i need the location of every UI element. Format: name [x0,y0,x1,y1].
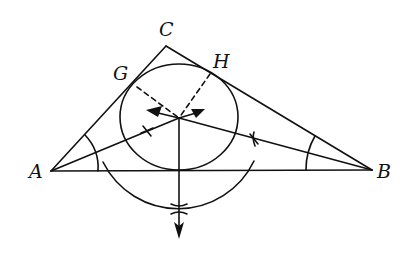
label-h: H [212,50,230,72]
incircle-construction-diagram: A B C G H [0,0,412,254]
cross-mark-bisector-a [141,126,153,136]
side-ac [51,46,166,171]
label-a: A [27,160,43,182]
label-c: C [159,18,174,40]
label-b: B [376,160,391,182]
bisector-a [51,118,179,171]
triangle-abc [51,46,372,171]
arrow-left-icon [146,106,179,118]
side-cb [166,46,372,170]
side-ab [51,170,372,171]
bisector-b [179,118,372,170]
label-g: G [113,62,128,84]
angle-arc-a [85,135,98,171]
